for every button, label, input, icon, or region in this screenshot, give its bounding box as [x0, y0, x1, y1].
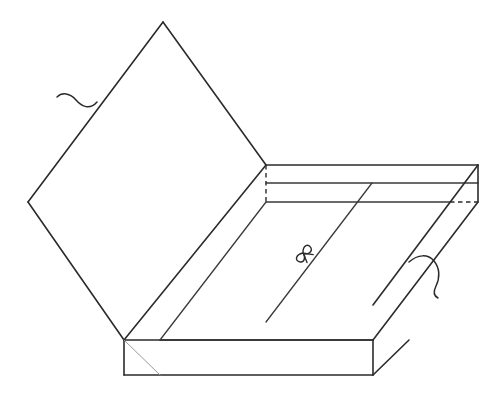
open-box-line-drawing — [0, 0, 502, 401]
box-front-wall-fill — [124, 340, 373, 375]
